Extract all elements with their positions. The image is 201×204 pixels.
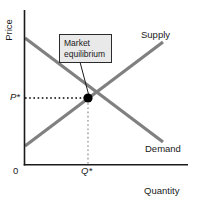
equilibrium-point-marker <box>83 93 92 102</box>
market-equilibrium-callout: Market equilibrium <box>59 34 112 63</box>
demand-curve-label: Demand <box>145 144 181 154</box>
y-axis-title-text: Price <box>4 19 14 41</box>
equilibrium-price-label: P* <box>10 92 20 102</box>
callout-line-1: Market <box>64 38 108 49</box>
x-axis-title: Quantity <box>144 186 179 196</box>
origin-label: 0 <box>13 166 18 176</box>
callout-line-2: equilibrium <box>64 49 108 60</box>
supply-curve-label: Supply <box>141 30 170 40</box>
equilibrium-quantity-label: Q* <box>81 166 92 176</box>
y-axis-title: Price <box>2 10 16 50</box>
chart-canvas <box>0 0 201 204</box>
supply-demand-chart: Price Quantity 0 P* Q* Supply Demand Mar… <box>0 0 201 204</box>
